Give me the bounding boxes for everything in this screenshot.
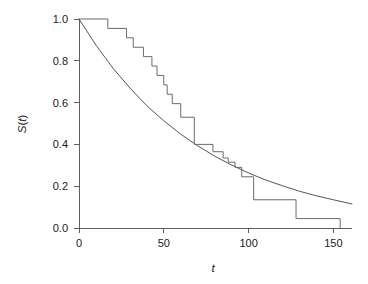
x-axis-title-text: t: [211, 262, 215, 274]
y-tick-label: 0.2: [53, 180, 68, 192]
y-tick-label: 0.8: [53, 55, 68, 67]
y-axis-tick-labels: 0.0 0.2 0.4 0.6 0.8 1.0: [53, 13, 68, 234]
survival-chart-figure: 0.0 0.2 0.4 0.6 0.8 1.0 0 50 100 150 t S…: [0, 0, 368, 284]
y-axis-title-close-paren: ): [16, 115, 28, 119]
y-axis-title-group: S(t): [16, 115, 28, 134]
y-axis-ticks: [74, 19, 79, 228]
x-tick-label: 150: [324, 237, 342, 249]
chart-canvas: 0.0 0.2 0.4 0.6 0.8 1.0 0 50 100 150 t S…: [0, 0, 368, 284]
x-axis-ticks: [79, 228, 333, 233]
x-axis-title: t: [211, 262, 215, 274]
x-tick-label: 0: [76, 237, 82, 249]
x-tick-label: 50: [158, 237, 170, 249]
kaplan-meier-step-curve: [79, 19, 340, 228]
y-tick-label: 0.6: [53, 97, 68, 109]
y-tick-label: 0.0: [53, 222, 68, 234]
y-tick-label: 0.4: [53, 138, 68, 150]
fitted-exponential-curve: [79, 19, 352, 204]
y-axis-title: S(t): [16, 115, 28, 134]
y-tick-label: 1.0: [53, 13, 68, 25]
x-tick-label: 100: [239, 237, 257, 249]
x-axis-tick-labels: 0 50 100 150: [76, 237, 343, 249]
